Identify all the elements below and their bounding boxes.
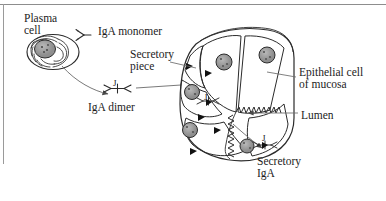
iga-dimer-symbol (104, 84, 131, 93)
epithelial-nucleus (216, 54, 232, 70)
iga-monomer-symbol (76, 30, 91, 41)
diagram-artwork (0, 0, 386, 201)
label-epithelial-cell: Epithelial cell of mucosa (299, 66, 363, 91)
epithelial-nucleus (185, 85, 200, 100)
label-plasma-cell: Plasma cell (24, 12, 57, 37)
label-j-chain-dimer: J (113, 78, 117, 88)
label-iga-dimer: IgA dimer (88, 101, 135, 113)
arrow-plasma-to-dimer (62, 66, 108, 94)
epithelial-nucleus (183, 123, 198, 138)
label-iga-monomer: IgA monomer (98, 25, 162, 37)
epithelium-group (180, 27, 294, 160)
plasma-cell (27, 35, 79, 70)
figure-canvas: Plasma cell IgA monomer Secretory piece … (0, 0, 386, 201)
epithelial-nucleus (259, 47, 275, 63)
label-j-chain-intracellular: J (204, 92, 208, 102)
label-secretory-piece: Secretory piece (130, 48, 174, 73)
label-secretory-iga: Secretory IgA (257, 155, 301, 180)
label-lumen: Lumen (301, 109, 334, 121)
label-j-chain-secretory: J (262, 133, 266, 143)
epithelial-nucleus (240, 139, 254, 153)
